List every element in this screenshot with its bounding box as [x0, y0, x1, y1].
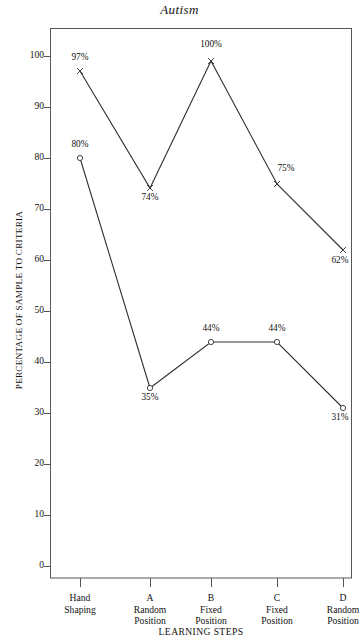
point-label-lower-0: 80%	[58, 139, 102, 149]
marker-x-c-fixed-position	[274, 181, 280, 187]
x-category-key-4: D	[305, 592, 364, 604]
x-category-line2-2: Position	[173, 615, 249, 627]
series-line-lower	[80, 158, 343, 408]
point-label-lower-2: 44%	[189, 323, 233, 333]
x-category-b-fixed-position: B Fixed Position	[173, 592, 249, 627]
x-category-c-fixed-position: C Fixed Position	[239, 592, 315, 627]
marker-circle-a-random-position	[147, 385, 152, 390]
x-category-line1-3: Fixed	[239, 604, 315, 616]
x-category-key-3: C	[239, 592, 315, 604]
y-axis-ticks	[44, 57, 51, 567]
point-label-upper-2: 100%	[189, 39, 233, 49]
x-category-line1-2: Fixed	[173, 604, 249, 616]
marker-x-d-random-position	[340, 247, 346, 253]
x-category-d-random-position: D Random Position	[305, 592, 364, 627]
x-category-key-2: B	[173, 592, 249, 604]
x-category-line1-0: Hand	[42, 592, 118, 604]
point-label-lower-4: 31%	[318, 412, 362, 422]
x-category-line2-4: Position	[305, 615, 364, 627]
point-label-lower-3: 44%	[255, 323, 299, 333]
marker-x-b-fixed-position	[208, 58, 214, 64]
marker-x-a-random-position	[147, 185, 153, 191]
point-label-lower-1: 35%	[128, 392, 172, 402]
series-line-upper	[80, 61, 343, 250]
marker-circle-hand-shaping	[77, 155, 82, 160]
marker-circle-c-fixed-position	[274, 339, 279, 344]
x-category-line2-0: Shaping	[42, 604, 118, 616]
point-label-upper-1: 74%	[128, 192, 172, 202]
point-label-upper-4: 62%	[318, 255, 362, 265]
x-axis-ticks	[81, 578, 344, 587]
point-label-upper-3: 75%	[264, 163, 308, 173]
marker-circle-d-random-position	[340, 405, 345, 410]
x-category-line2-3: Position	[239, 615, 315, 627]
point-label-upper-0: 97%	[58, 52, 102, 62]
marker-circle-b-fixed-position	[208, 339, 213, 344]
x-category-hand-shaping: Hand Shaping	[42, 592, 118, 615]
marker-x-hand-shaping	[77, 68, 83, 74]
series-markers-upper	[77, 58, 346, 253]
x-category-line1-4: Random	[305, 604, 364, 616]
plot-frame	[51, 29, 352, 579]
